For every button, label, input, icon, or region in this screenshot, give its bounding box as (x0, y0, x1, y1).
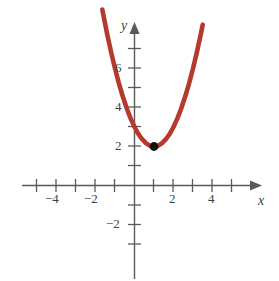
y-axis-arrow-icon (130, 22, 140, 34)
parabola-graph-figure: y x −4 −2 2 4 6 4 2 −2 (0, 0, 279, 281)
x-tick-label-pos4: 4 (208, 191, 215, 207)
x-tick-label-neg4: −4 (45, 191, 59, 207)
y-axis-label: y (121, 18, 127, 34)
x-axis-label: x (258, 193, 264, 209)
x-tick-label-neg2: −2 (84, 191, 98, 207)
vertex-point-marker (150, 142, 159, 151)
parabola-curve (102, 10, 202, 147)
x-axis-arrow-icon (250, 181, 262, 191)
y-tick-label-2: 2 (115, 138, 122, 154)
y-tick-label-4: 4 (115, 99, 122, 115)
x-tick-label-pos2: 2 (169, 191, 176, 207)
y-axis (128, 22, 141, 279)
y-tick-label-6: 6 (115, 60, 122, 76)
coordinate-plane-svg (0, 0, 279, 281)
y-tick-label-neg2: −2 (106, 216, 120, 232)
